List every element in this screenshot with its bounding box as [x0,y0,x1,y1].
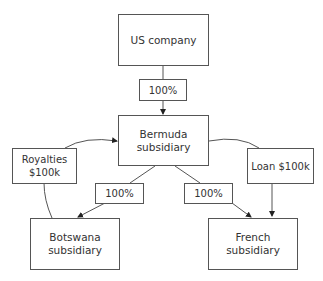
node-french-line1: French [236,231,271,244]
ownership-percent: 100% [105,187,134,200]
edge-label-bermuda-botswana: 100% [95,183,144,204]
royalties-line1: Royalties [22,153,68,166]
node-botswana-line2: subsidiary [48,244,102,257]
node-us-company: US company [118,14,209,66]
ownership-percent: 100% [149,84,178,97]
ownership-percent: 100% [194,187,223,200]
node-bermuda-line2: subsidiary [137,141,191,154]
node-us-company-label: US company [130,34,196,47]
node-french-line2: subsidiary [226,244,280,257]
node-botswana-subsidiary: Botswana subsidiary [30,218,120,270]
node-botswana-line1: Botswana [49,231,100,244]
node-french-subsidiary: French subsidiary [208,218,298,270]
edge-label-bermuda-french: 100% [184,183,233,204]
loan-label: Loan $100k [251,160,309,173]
node-bermuda-line1: Bermuda [140,128,188,141]
edge-label-royalties: Royalties $100k [12,148,77,184]
node-bermuda-subsidiary: Bermuda subsidiary [118,115,209,166]
edge-label-loan: Loan $100k [247,148,314,184]
edge-label-us-bermuda: 100% [139,79,187,101]
royalties-line2: $100k [29,166,60,179]
